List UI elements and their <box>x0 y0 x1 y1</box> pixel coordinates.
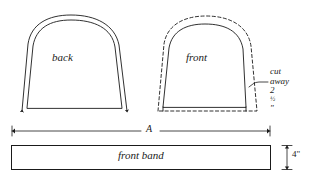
band-height-dimension-line <box>282 146 292 170</box>
front-piece-bottom-edge <box>163 107 246 111</box>
cut-away-annotation: cut away 2½" <box>270 67 289 113</box>
band-height-label: 4" <box>292 150 300 160</box>
front-piece-outline <box>163 24 246 107</box>
front-band-label: front band <box>118 150 164 162</box>
front-piece-label: front <box>186 52 207 64</box>
pattern-diagram: back front cut away 2½" A front band 4" <box>0 0 310 176</box>
back-piece-label: back <box>52 52 73 64</box>
front-piece-group <box>158 16 257 111</box>
back-piece-seam-line <box>22 15 127 111</box>
cut-away-unit: " <box>270 104 289 114</box>
cut-away-leader <box>249 82 268 87</box>
cut-away-measurement: 2½" <box>270 86 289 113</box>
front-piece-seam-line-dashed <box>158 16 257 111</box>
dimension-a-line <box>12 126 270 136</box>
dimension-a-label: A <box>146 124 152 135</box>
back-piece-outline <box>27 20 122 108</box>
back-piece-group <box>22 15 127 111</box>
